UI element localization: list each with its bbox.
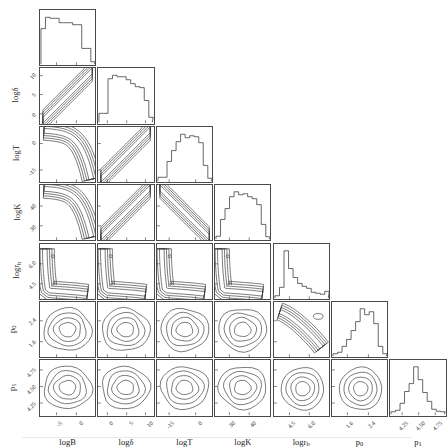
- xlabel-logdelta: logδ: [97, 437, 154, 447]
- panel-diag-logrb: [273, 243, 330, 300]
- panel-p1-vs-logdelta: [97, 359, 154, 416]
- panel-diag-logK: [214, 184, 271, 241]
- panel-p1-vs-logT: [156, 359, 213, 416]
- ytick-p0-1: 2.4: [14, 317, 37, 340]
- panel-logrb-vs-logT: [156, 243, 213, 300]
- panel-p1-vs-p0: [331, 359, 388, 416]
- xlabel-p0: p0: [331, 437, 388, 447]
- ytick-logK-0: 30: [14, 223, 37, 246]
- panel-logT-vs-logdelta: [97, 126, 154, 183]
- xlabel-logB: logB: [39, 437, 96, 447]
- panel-logK-vs-logdelta: [97, 184, 154, 241]
- xlabel-logrb: logrb: [273, 437, 330, 447]
- ylabel-p0: p0: [7, 325, 17, 333]
- ytick-p0-0: 1.6: [14, 339, 37, 362]
- bottom-divider: [22, 437, 412, 438]
- panel-diag-p0: [331, 301, 388, 358]
- panel-logT-vs-logB: [39, 126, 96, 183]
- panel-p0-vs-logB: [39, 301, 96, 358]
- panel-diag-logB: [39, 9, 96, 66]
- ylabel-logK: logK: [12, 203, 22, 220]
- panel-logrb-vs-logdelta: [97, 243, 154, 300]
- ylabel-logT: logT: [11, 145, 21, 161]
- xlabel-logK: logK: [214, 437, 271, 447]
- ylabel-logdelta: logδ: [10, 88, 20, 103]
- panel-logrb-vs-logK: [214, 243, 271, 300]
- panel-logK-vs-logB: [39, 184, 96, 241]
- panel-diag-logdelta: [97, 67, 154, 124]
- panel-logK-vs-logT: [156, 184, 213, 241]
- panel-p0-vs-logdelta: [97, 301, 154, 358]
- panel-logrb-vs-logB: [39, 243, 96, 300]
- xlabel-logT: logT: [156, 437, 213, 447]
- ytick-logrb-0: 4.5: [14, 281, 37, 304]
- panel-diag-logT: [156, 126, 213, 183]
- panel-p1-vs-logB: [39, 359, 96, 416]
- panel-diag-p1: [389, 359, 446, 416]
- ytick-logT-0: -15: [14, 167, 37, 190]
- panel-p0-vs-logT: [156, 301, 213, 358]
- panel-p1-vs-logK: [214, 359, 271, 416]
- ytick-logdelta-0: 0: [14, 112, 37, 135]
- ylabel-p1: p1: [7, 383, 17, 391]
- panel-p1-vs-logrb: [273, 359, 330, 416]
- panel-p0-vs-logK: [214, 301, 271, 358]
- panel-p0-vs-logrb: [273, 301, 330, 358]
- panel-logdelta-vs-logB: [39, 67, 96, 124]
- ylabel-logrb: logrb: [11, 262, 21, 279]
- xlabel-p1: p1: [389, 437, 446, 447]
